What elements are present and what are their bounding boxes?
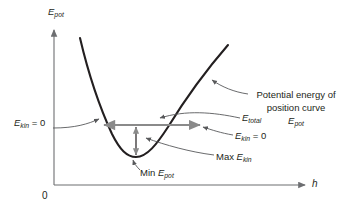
potential-energy-curve xyxy=(80,38,228,157)
leader-min-epot xyxy=(133,160,140,170)
y-axis-label: Epot xyxy=(48,7,64,18)
leader-etotal xyxy=(160,113,240,118)
leader-max-ekin xyxy=(146,138,214,155)
leader-curve-caption xyxy=(212,80,248,94)
label-min-epot: Min Epot xyxy=(140,168,174,179)
label-max-ekin: Max Ekin xyxy=(216,152,252,163)
x-axis-label: h xyxy=(312,178,318,189)
label-ekin-zero-left: Ekin = 0 xyxy=(14,118,45,129)
curve-caption-symbol: Epot xyxy=(288,115,304,126)
curve-caption-line1: Potential energy of xyxy=(256,89,335,100)
curve-caption: Potential energy of position curve Epot xyxy=(249,88,343,128)
origin-label: 0 xyxy=(42,190,48,201)
curve-caption-line2: position curve xyxy=(267,102,326,113)
leader-ekin-zero-right xyxy=(203,127,233,135)
label-ekin-zero-right: Ekin = 0 xyxy=(235,131,266,142)
leader-ekin-zero-left xyxy=(53,119,99,128)
potential-energy-diagram: Epot h 0 Ekin = 0 Etotal Ekin = 0 Max Ek… xyxy=(0,0,345,209)
